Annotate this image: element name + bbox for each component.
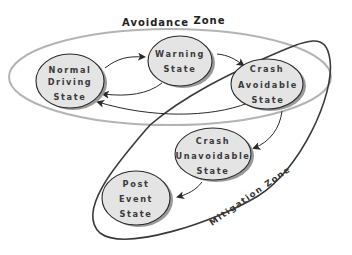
edge-normal-to-warning [105,57,144,68]
node-crash-avoidable-state: Crash Avoidable State [231,59,306,111]
svg-text:Unavoidable: Unavoidable [176,151,251,161]
svg-text:Crash: Crash [250,64,284,74]
svg-text:Event: Event [119,194,153,204]
svg-text:Normal: Normal [49,65,92,75]
svg-text:Driving: Driving [48,77,93,87]
svg-text:State: State [164,64,197,74]
node-normal-driving-state: Normal Driving State [36,54,107,110]
edge-warning-to-normal [103,83,162,95]
svg-text:State: State [252,95,285,105]
svg-text:Crash: Crash [196,136,230,146]
avoidance-zone-label: Avoidance Zone [122,15,225,28]
svg-text:State: State [54,92,87,102]
state-diagram: Avoidance Zone Mitigation Zone Normal Dr… [0,0,352,255]
svg-text:Post: Post [123,179,150,189]
svg-text:State: State [120,209,153,219]
edge-warning-to-crash-avoidable [217,54,243,65]
svg-text:State: State [197,166,230,176]
node-warning-state: Warning State [148,36,215,88]
node-post-event-state: Post Event State [102,171,173,227]
svg-text:Avoidable: Avoidable [238,80,298,90]
node-crash-unavoidable-state: Crash Unavoidable State [175,128,254,182]
edge-crash-unavoidable-to-post-event [178,182,202,197]
svg-text:Warning: Warning [155,49,205,59]
